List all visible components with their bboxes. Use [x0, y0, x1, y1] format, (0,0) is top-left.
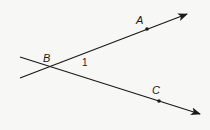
point-c-dot: [157, 99, 161, 103]
ray-bc: [20, 57, 200, 114]
ray-ba: [20, 14, 187, 78]
label-a: A: [135, 14, 143, 26]
diagram-svg: A B C 1: [0, 0, 210, 130]
angle-diagram: A B C 1: [0, 0, 210, 130]
angle-1-label: 1: [82, 57, 88, 68]
label-c: C: [152, 84, 160, 96]
point-a-dot: [145, 27, 149, 31]
label-b: B: [43, 52, 50, 64]
